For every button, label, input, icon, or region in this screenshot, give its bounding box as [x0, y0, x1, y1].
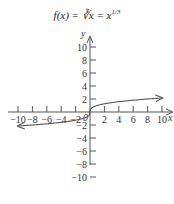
y-tick-label: −10 — [71, 172, 87, 183]
x-tick-label: −4 — [56, 114, 67, 125]
x-tick-label: 2 — [102, 114, 107, 125]
chart-svg: −10−8−6−4−2246810108642−2−4−6−8−100xy — [0, 0, 174, 204]
x-tick-label: 4 — [116, 114, 121, 125]
y-tick-label: −8 — [76, 159, 87, 170]
y-axis-label: y — [80, 28, 86, 39]
x-tick-label: 10 — [157, 114, 167, 125]
x-tick-label: −8 — [27, 114, 38, 125]
y-tick-label: 6 — [82, 68, 87, 79]
x-tick-label: 6 — [131, 114, 136, 125]
y-tick-label: 10 — [77, 42, 87, 53]
y-tick-label: 2 — [82, 94, 87, 105]
y-tick-label: 4 — [82, 81, 87, 92]
y-tick-label: −4 — [76, 133, 87, 144]
y-tick-label: 8 — [82, 55, 87, 66]
x-tick-label: −10 — [10, 114, 26, 125]
y-tick-label: −6 — [76, 146, 87, 157]
x-tick-label: 8 — [145, 114, 150, 125]
x-axis-label: x — [167, 112, 173, 123]
